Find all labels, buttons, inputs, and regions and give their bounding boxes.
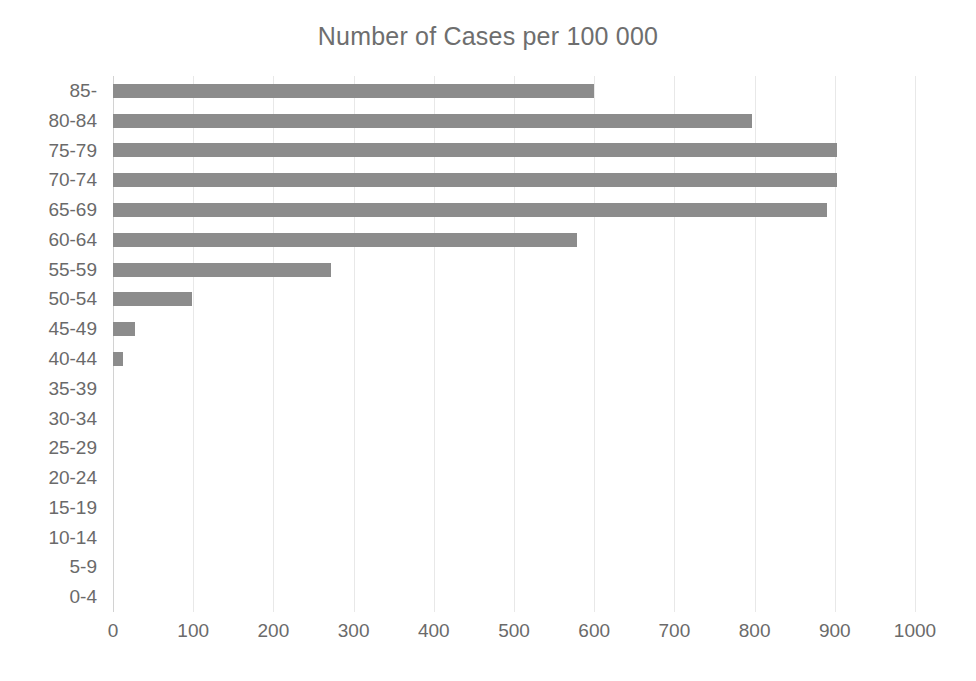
bar-row [113, 165, 915, 195]
x-axis-tick-label: 400 [418, 620, 450, 642]
x-axis-tick-label: 0 [108, 620, 119, 642]
bar-row [113, 404, 915, 434]
x-axis-tick-label: 900 [819, 620, 851, 642]
y-axis-tick-label: 10-14 [0, 523, 105, 553]
y-axis-tick-label: 45-49 [0, 314, 105, 344]
bar-row [113, 225, 915, 255]
x-axis-tick-label: 100 [177, 620, 209, 642]
bar-row [113, 493, 915, 523]
y-axis-tick-label: 70-74 [0, 165, 105, 195]
bar-70-74 [113, 173, 837, 187]
x-axis-tick-label: 500 [498, 620, 530, 642]
bar-row [113, 374, 915, 404]
bar-row [113, 582, 915, 612]
bar-row [113, 314, 915, 344]
y-axis-tick-label: 75-79 [0, 136, 105, 166]
y-axis-tick-label: 30-34 [0, 404, 105, 434]
bar-row [113, 523, 915, 553]
bar-75-79 [113, 143, 837, 157]
bar-60-64 [113, 233, 577, 247]
bar-row [113, 463, 915, 493]
y-axis-tick-label: 65-69 [0, 195, 105, 225]
y-axis-tick-label: 5-9 [0, 552, 105, 582]
bar-65-69 [113, 203, 827, 217]
bar-row [113, 106, 915, 136]
y-axis-labels: 85-80-8475-7970-7465-6960-6455-5950-5445… [0, 76, 105, 612]
x-axis-tick-label: 1000 [894, 620, 936, 642]
bar-85- [113, 84, 594, 98]
y-axis-tick-label: 15-19 [0, 493, 105, 523]
y-axis-tick-label: 35-39 [0, 374, 105, 404]
y-axis-tick-label: 55-59 [0, 255, 105, 285]
bar-50-54 [113, 292, 192, 306]
chart-title: Number of Cases per 100 000 [0, 22, 976, 51]
y-axis-tick-label: 0-4 [0, 582, 105, 612]
y-axis-tick-label: 50-54 [0, 284, 105, 314]
bar-row [113, 195, 915, 225]
bar-45-49 [113, 322, 135, 336]
bar-row [113, 284, 915, 314]
bar-row [113, 433, 915, 463]
x-axis-tick-label: 800 [739, 620, 771, 642]
y-axis-tick-label: 20-24 [0, 463, 105, 493]
bar-row [113, 255, 915, 285]
bar-55-59 [113, 263, 331, 277]
bar-row [113, 344, 915, 374]
bar-80-84 [113, 114, 752, 128]
bar-row [113, 76, 915, 106]
y-axis-tick-label: 85- [0, 76, 105, 106]
y-axis-tick-label: 60-64 [0, 225, 105, 255]
x-axis-tick-label: 700 [659, 620, 691, 642]
bar-row [113, 136, 915, 166]
x-axis-labels: 01002003004005006007008009001000 [113, 620, 915, 652]
bar-row [113, 552, 915, 582]
bar-40-44 [113, 352, 123, 366]
x-axis-tick-label: 200 [258, 620, 290, 642]
y-axis-tick-label: 25-29 [0, 433, 105, 463]
y-axis-tick-label: 40-44 [0, 344, 105, 374]
x-axis-tick-label: 600 [578, 620, 610, 642]
y-axis-tick-label: 80-84 [0, 106, 105, 136]
chart-container: Number of Cases per 100 000 85-80-8475-7… [0, 0, 976, 681]
x-axis-tick-label: 300 [338, 620, 370, 642]
gridline-1000 [915, 76, 916, 612]
bar-series [113, 76, 915, 612]
plot-area [113, 76, 915, 612]
